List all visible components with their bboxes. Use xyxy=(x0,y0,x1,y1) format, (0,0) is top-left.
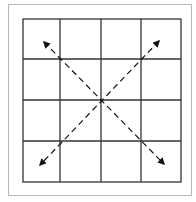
grid-diagram xyxy=(0,0,196,202)
arrow-nw-se-icon xyxy=(44,42,164,164)
